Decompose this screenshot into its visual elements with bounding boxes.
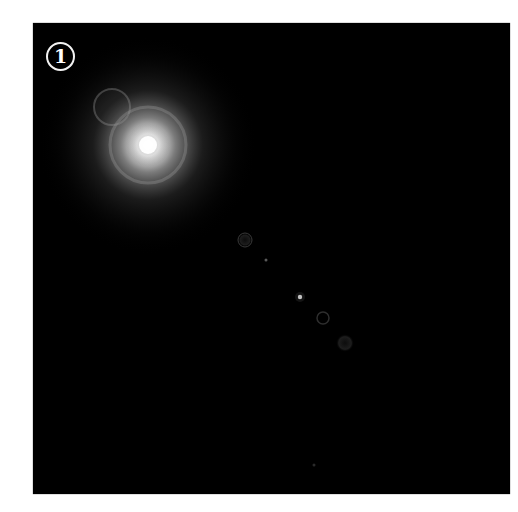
flare-ghost — [238, 233, 252, 247]
lens-flare-photo: 1 — [33, 23, 510, 494]
flare-dot — [265, 259, 268, 262]
flare-ghost — [317, 312, 329, 324]
flare-dot — [313, 464, 316, 467]
step-number-badge: 1 — [46, 42, 75, 71]
halo-ring-small — [94, 89, 130, 125]
lens-flare-graphic — [33, 23, 510, 494]
flare-ghost — [336, 334, 354, 352]
